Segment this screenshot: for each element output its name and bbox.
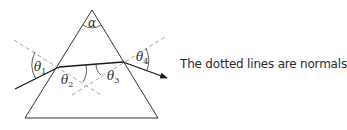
normals-caption: The dotted lines are normals <box>180 57 347 71</box>
theta3-arc <box>96 64 101 75</box>
theta2-label: θ2 <box>61 73 73 89</box>
theta4-label: θ4 <box>136 50 148 66</box>
alpha-label: α <box>88 16 96 30</box>
theta3-label: θ3 <box>107 69 119 85</box>
internal-ray <box>59 62 123 67</box>
theta1-label: θ1 <box>34 60 46 76</box>
theta2-arc <box>83 65 87 82</box>
